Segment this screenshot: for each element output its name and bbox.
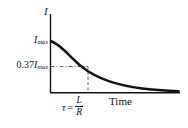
- y-tick-label-tau-level: 0.37Imax: [17, 60, 48, 71]
- tau-symbol: τ: [62, 103, 66, 113]
- tau-fraction-denominator: R: [75, 107, 83, 117]
- x-axis-label: Time: [109, 96, 132, 107]
- y-axis-label: I: [44, 6, 48, 17]
- y-tick-label-tau-level-subscript: max: [37, 63, 48, 70]
- tau-equals-sign: =: [68, 103, 74, 113]
- tau-fraction: L R: [75, 96, 83, 117]
- y-tick-label-tau-level-prefix: 0.37: [17, 59, 35, 70]
- rl-circuit-current-decay-figure: I Imax 0.37Imax τ = L R Time: [0, 0, 188, 128]
- y-tick-label-imax-subscript: max: [37, 38, 48, 45]
- y-tick-label-imax: Imax: [34, 35, 48, 46]
- tau-fraction-numerator: L: [75, 96, 82, 106]
- x-tick-label-tau: τ = L R: [62, 96, 83, 117]
